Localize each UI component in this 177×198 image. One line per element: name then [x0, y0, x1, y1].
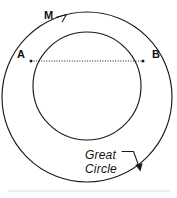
label-b: B — [152, 49, 160, 60]
label-great-circle-line1: Great — [85, 148, 116, 162]
great-circle-leader-arrowhead — [135, 163, 142, 171]
m-leader-line — [57, 15, 67, 22]
great-circle-leader-line — [122, 152, 139, 167]
point-b-marker — [142, 60, 145, 63]
small-circle-outline — [33, 32, 141, 140]
great-circle-diagram: M A B GreatCircle — [0, 0, 177, 198]
label-great-circle-line2: Circle — [85, 162, 117, 176]
label-m: M — [44, 10, 53, 21]
point-a-marker — [30, 60, 33, 63]
label-a: A — [17, 49, 25, 60]
label-great-circle: GreatCircle — [85, 148, 117, 176]
